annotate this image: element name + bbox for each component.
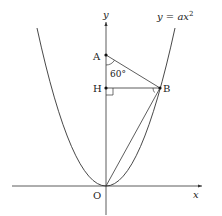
point-h-label: H	[93, 83, 102, 94]
point-b-label: B	[163, 83, 170, 94]
x-axis-label: x	[193, 189, 199, 200]
origin-label: O	[93, 190, 101, 201]
angle-arc-a	[106, 60, 115, 65]
point-a	[104, 53, 107, 56]
angle-label: 60°	[110, 69, 126, 79]
angle-arc-b	[153, 88, 155, 93]
point-b	[158, 86, 161, 89]
y-axis-label: y	[102, 9, 109, 20]
point-a-label: A	[92, 51, 101, 62]
point-h	[104, 86, 107, 89]
curve-equation-label: y = ax2	[156, 10, 193, 22]
parabola-diagram: y x O A H B 60° y = ax2	[0, 0, 222, 216]
segment-ob	[106, 88, 160, 186]
